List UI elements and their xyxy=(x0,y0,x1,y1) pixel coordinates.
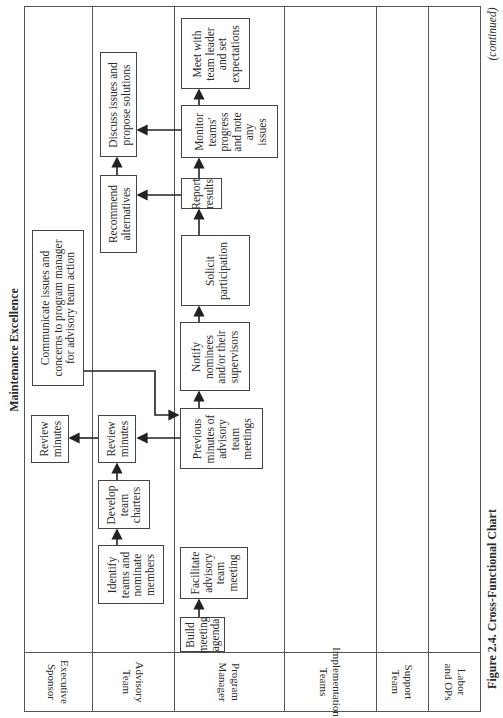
box-communicate-issues: Communicate issues and concerns to progr… xyxy=(32,230,84,386)
box-text: Communicate issues and concerns to progr… xyxy=(39,240,77,377)
box-text: Report results xyxy=(189,178,214,209)
box-text: Recommend alternatives xyxy=(106,185,131,243)
box-text: Discuss issues and propose solutions xyxy=(106,62,131,148)
box-text: Notify nominees and/or their supervisors xyxy=(190,330,240,383)
box-build-agenda: Build meeting agenda xyxy=(180,617,225,652)
box-text: Facilitate advisory team meeting xyxy=(189,552,239,595)
box-facilitate-meeting: Facilitate advisory team meeting xyxy=(180,547,248,599)
box-text: Build meeting agenda xyxy=(184,616,222,653)
box-text: Previous minutes of advisory team meetin… xyxy=(190,414,253,463)
box-exec-review-minutes: Review minutes xyxy=(31,415,69,463)
box-recommend-alternatives: Recommend alternatives xyxy=(100,175,137,253)
box-identify-teams: Identify teams and nominate members xyxy=(98,545,164,604)
box-text: Meet with team leader and set expectatio… xyxy=(191,25,241,82)
box-monitor-progress: Monitor teams' progress and note any iss… xyxy=(181,105,278,158)
box-text: Solicit participation xyxy=(203,241,228,299)
box-text: Review minutes xyxy=(105,421,130,457)
box-report-results: Report results xyxy=(181,178,222,209)
box-previous-minutes: Previous minutes of advisory team meetin… xyxy=(180,408,263,469)
box-advisory-review-minutes: Review minutes xyxy=(98,415,136,463)
box-text: Identify teams and nominate members xyxy=(106,551,156,597)
box-solicit-participation: Solicit participation xyxy=(181,235,250,306)
box-discuss-issues: Discuss issues and propose solutions xyxy=(100,52,137,157)
box-meet-team-leader: Meet with team leader and set expectatio… xyxy=(181,18,250,89)
box-notify-nominees: Notify nominees and/or their supervisors xyxy=(180,322,250,391)
box-develop-charters: Develop team charters xyxy=(98,480,150,529)
box-text: Monitor teams' progress and note any iss… xyxy=(192,112,267,151)
box-text: Develop team charters xyxy=(105,485,143,524)
box-text: Review minutes xyxy=(38,421,63,457)
